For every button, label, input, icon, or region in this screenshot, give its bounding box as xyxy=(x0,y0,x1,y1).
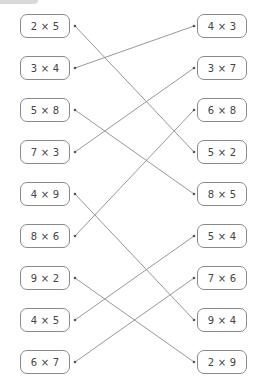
right-anchor-dot[interactable] xyxy=(193,277,196,280)
right-anchor-dot[interactable] xyxy=(193,25,196,28)
right-card[interactable]: 5 × 2 xyxy=(197,140,247,164)
left-card[interactable]: 2 × 5 xyxy=(20,14,70,38)
right-card[interactable]: 7 × 6 xyxy=(197,266,247,290)
right-anchor-dot[interactable] xyxy=(193,151,196,154)
right-card[interactable]: 4 × 3 xyxy=(197,14,247,38)
right-card[interactable]: 6 × 8 xyxy=(197,98,247,122)
left-card[interactable]: 4 × 5 xyxy=(20,308,70,332)
connection-line xyxy=(75,68,194,152)
right-anchor-dot[interactable] xyxy=(193,319,196,322)
left-card[interactable]: 9 × 2 xyxy=(20,266,70,290)
left-card[interactable]: 8 × 6 xyxy=(20,224,70,248)
connection-line xyxy=(75,26,194,152)
right-anchor-dot[interactable] xyxy=(193,193,196,196)
left-anchor-dot[interactable] xyxy=(74,277,77,280)
connection-line xyxy=(75,110,194,236)
connection-line xyxy=(75,194,194,320)
left-anchor-dot[interactable] xyxy=(74,319,77,322)
right-card[interactable]: 8 × 5 xyxy=(197,182,247,206)
right-card[interactable]: 2 × 9 xyxy=(197,350,247,374)
right-anchor-dot[interactable] xyxy=(193,235,196,238)
left-card[interactable]: 5 × 8 xyxy=(20,98,70,122)
left-card[interactable]: 3 × 4 xyxy=(20,56,70,80)
right-anchor-dot[interactable] xyxy=(193,67,196,70)
connection-line xyxy=(75,236,194,320)
right-anchor-dot[interactable] xyxy=(193,109,196,112)
right-card[interactable]: 5 × 4 xyxy=(197,224,247,248)
left-anchor-dot[interactable] xyxy=(74,67,77,70)
right-anchor-dot[interactable] xyxy=(193,361,196,364)
left-card[interactable]: 7 × 3 xyxy=(20,140,70,164)
left-card[interactable]: 4 × 9 xyxy=(20,182,70,206)
right-card[interactable]: 3 × 7 xyxy=(197,56,247,80)
left-anchor-dot[interactable] xyxy=(74,235,77,238)
connection-line xyxy=(75,110,194,194)
connection-line xyxy=(75,26,194,68)
left-anchor-dot[interactable] xyxy=(74,25,77,28)
left-anchor-dot[interactable] xyxy=(74,193,77,196)
left-anchor-dot[interactable] xyxy=(74,109,77,112)
left-anchor-dot[interactable] xyxy=(74,151,77,154)
right-card[interactable]: 9 × 4 xyxy=(197,308,247,332)
left-anchor-dot[interactable] xyxy=(74,361,77,364)
left-card[interactable]: 6 × 7 xyxy=(20,350,70,374)
